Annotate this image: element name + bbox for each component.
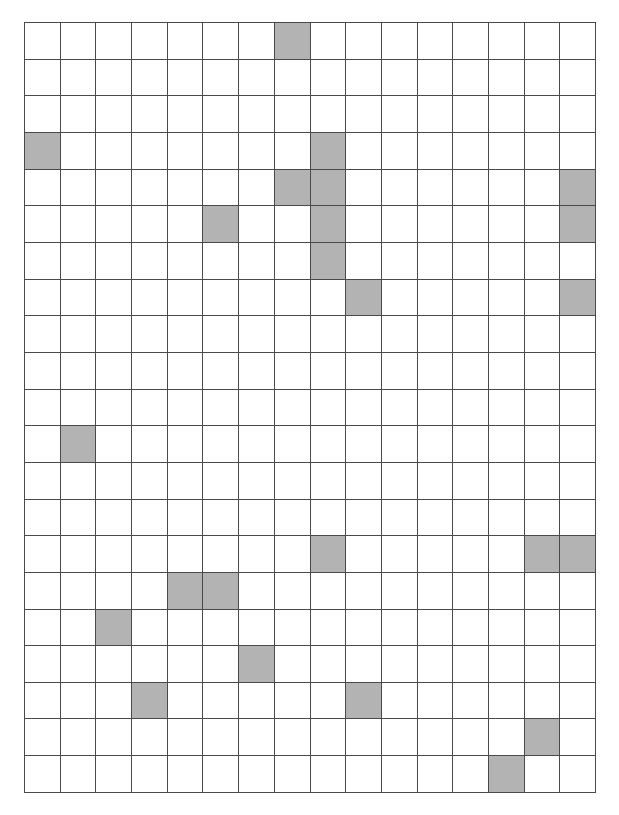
grid-cell-empty[interactable]: [274, 756, 310, 793]
grid-cell-empty[interactable]: [417, 536, 453, 573]
grid-cell-empty[interactable]: [310, 23, 346, 60]
grid-cell-empty[interactable]: [560, 132, 596, 169]
grid-cell-empty[interactable]: [417, 23, 453, 60]
grid-cell-filled[interactable]: [524, 536, 560, 573]
grid-cell-empty[interactable]: [453, 352, 489, 389]
grid-cell-empty[interactable]: [488, 132, 524, 169]
grid-cell-empty[interactable]: [25, 462, 61, 499]
grid-cell-empty[interactable]: [560, 646, 596, 683]
grid-cell-empty[interactable]: [25, 609, 61, 646]
grid-cell-empty[interactable]: [96, 352, 132, 389]
grid-cell-empty[interactable]: [274, 536, 310, 573]
grid-cell-empty[interactable]: [96, 572, 132, 609]
grid-cell-empty[interactable]: [488, 169, 524, 206]
grid-cell-empty[interactable]: [239, 352, 275, 389]
grid-cell-empty[interactable]: [453, 499, 489, 536]
grid-cell-empty[interactable]: [381, 572, 417, 609]
grid-cell-empty[interactable]: [96, 756, 132, 793]
grid-cell-empty[interactable]: [239, 132, 275, 169]
grid-cell-empty[interactable]: [203, 646, 239, 683]
grid-cell-empty[interactable]: [488, 572, 524, 609]
grid-cell-empty[interactable]: [60, 682, 96, 719]
grid-cell-empty[interactable]: [346, 536, 382, 573]
grid-cell-empty[interactable]: [239, 499, 275, 536]
grid-cell-empty[interactable]: [346, 756, 382, 793]
grid-cell-empty[interactable]: [274, 352, 310, 389]
grid-cell-empty[interactable]: [524, 169, 560, 206]
grid-cell-empty[interactable]: [453, 59, 489, 96]
grid-cell-empty[interactable]: [560, 316, 596, 353]
grid-cell-empty[interactable]: [25, 242, 61, 279]
grid-cell-filled[interactable]: [274, 23, 310, 60]
grid-cell-empty[interactable]: [239, 756, 275, 793]
grid-cell-empty[interactable]: [274, 389, 310, 426]
grid-cell-empty[interactable]: [488, 59, 524, 96]
grid-cell-empty[interactable]: [488, 719, 524, 756]
grid-cell-empty[interactable]: [60, 499, 96, 536]
grid-cell-empty[interactable]: [60, 719, 96, 756]
grid-cell-empty[interactable]: [560, 242, 596, 279]
grid-cell-empty[interactable]: [96, 242, 132, 279]
grid-cell-empty[interactable]: [453, 462, 489, 499]
grid-cell-empty[interactable]: [524, 572, 560, 609]
grid-cell-empty[interactable]: [381, 132, 417, 169]
grid-cell-empty[interactable]: [203, 132, 239, 169]
grid-cell-empty[interactable]: [381, 59, 417, 96]
grid-cell-empty[interactable]: [167, 462, 203, 499]
grid-cell-empty[interactable]: [239, 96, 275, 133]
grid-cell-empty[interactable]: [488, 206, 524, 243]
grid-cell-empty[interactable]: [346, 96, 382, 133]
grid-cell-empty[interactable]: [167, 426, 203, 463]
grid-cell-empty[interactable]: [25, 572, 61, 609]
grid-cell-empty[interactable]: [524, 132, 560, 169]
grid-cell-empty[interactable]: [417, 719, 453, 756]
grid-cell-empty[interactable]: [381, 206, 417, 243]
grid-cell-empty[interactable]: [132, 609, 168, 646]
grid-cell-empty[interactable]: [60, 352, 96, 389]
grid-cell-empty[interactable]: [274, 59, 310, 96]
grid-cell-empty[interactable]: [60, 96, 96, 133]
grid-cell-empty[interactable]: [203, 23, 239, 60]
grid-cell-empty[interactable]: [132, 572, 168, 609]
grid-cell-empty[interactable]: [203, 756, 239, 793]
grid-cell-filled[interactable]: [560, 169, 596, 206]
grid-cell-empty[interactable]: [25, 682, 61, 719]
grid-cell-empty[interactable]: [203, 242, 239, 279]
grid-cell-empty[interactable]: [239, 242, 275, 279]
grid-cell-filled[interactable]: [203, 206, 239, 243]
grid-cell-empty[interactable]: [417, 96, 453, 133]
grid-cell-empty[interactable]: [453, 756, 489, 793]
grid-cell-empty[interactable]: [453, 169, 489, 206]
grid-cell-empty[interactable]: [381, 169, 417, 206]
grid-cell-empty[interactable]: [310, 609, 346, 646]
grid-cell-empty[interactable]: [60, 572, 96, 609]
grid-cell-empty[interactable]: [310, 646, 346, 683]
grid-cell-empty[interactable]: [524, 316, 560, 353]
grid-cell-filled[interactable]: [346, 682, 382, 719]
grid-cell-empty[interactable]: [453, 96, 489, 133]
grid-cell-empty[interactable]: [96, 169, 132, 206]
grid-cell-empty[interactable]: [381, 499, 417, 536]
grid-cell-empty[interactable]: [167, 682, 203, 719]
grid-cell-empty[interactable]: [167, 609, 203, 646]
grid-cell-empty[interactable]: [60, 316, 96, 353]
grid-cell-filled[interactable]: [310, 132, 346, 169]
grid-cell-empty[interactable]: [239, 536, 275, 573]
grid-cell-empty[interactable]: [560, 682, 596, 719]
grid-cell-empty[interactable]: [132, 206, 168, 243]
grid-cell-empty[interactable]: [417, 426, 453, 463]
grid-cell-empty[interactable]: [239, 316, 275, 353]
grid-cell-filled[interactable]: [167, 572, 203, 609]
grid-cell-empty[interactable]: [417, 499, 453, 536]
grid-cell-empty[interactable]: [167, 536, 203, 573]
grid-cell-empty[interactable]: [453, 609, 489, 646]
grid-cell-empty[interactable]: [25, 316, 61, 353]
grid-cell-empty[interactable]: [346, 572, 382, 609]
grid-cell-empty[interactable]: [453, 719, 489, 756]
grid-cell-filled[interactable]: [25, 132, 61, 169]
grid-cell-empty[interactable]: [417, 389, 453, 426]
grid-cell-empty[interactable]: [96, 316, 132, 353]
grid-cell-empty[interactable]: [239, 389, 275, 426]
grid-cell-empty[interactable]: [453, 279, 489, 316]
grid-cell-empty[interactable]: [132, 389, 168, 426]
